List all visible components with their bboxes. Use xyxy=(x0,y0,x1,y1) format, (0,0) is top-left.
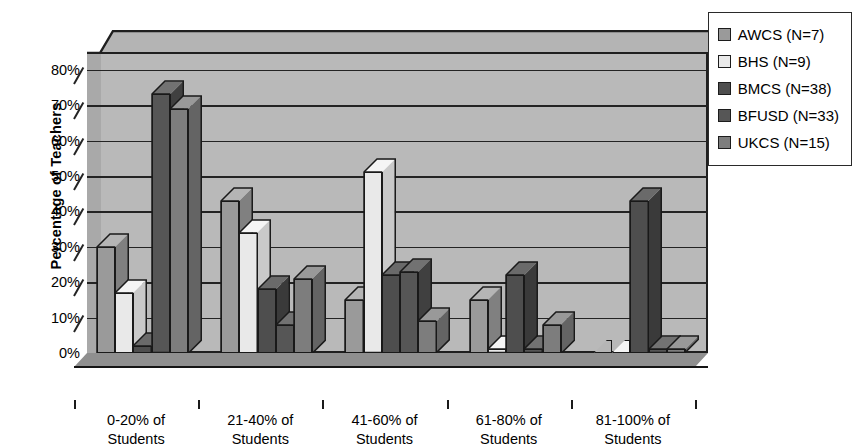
bar xyxy=(97,247,115,353)
y-tick-label: 0% xyxy=(28,346,80,361)
y-tick-label: 50% xyxy=(28,169,80,184)
bar xyxy=(258,289,276,353)
legend-swatch-icon xyxy=(718,136,731,149)
legend-swatch-icon xyxy=(718,28,731,41)
legend-item[interactable]: AWCS (N=7) xyxy=(718,21,839,48)
y-tick-label: 30% xyxy=(28,240,80,255)
x-tick-mark xyxy=(198,400,200,409)
bar xyxy=(630,201,648,353)
bar xyxy=(170,109,188,353)
y-tick-label: 40% xyxy=(28,204,80,219)
bars-layer xyxy=(87,52,708,353)
x-tick-mark xyxy=(447,400,449,409)
legend-swatch-icon xyxy=(718,109,731,122)
legend-swatch-icon xyxy=(718,55,731,68)
legend-swatch-icon xyxy=(718,82,731,95)
bar xyxy=(506,275,524,353)
bar xyxy=(239,233,257,353)
bar xyxy=(115,293,133,353)
bar xyxy=(364,172,382,353)
legend-item[interactable]: BMCS (N=38) xyxy=(718,75,839,102)
bar xyxy=(294,279,312,353)
bar xyxy=(133,346,151,353)
bar xyxy=(382,275,400,353)
plot-area: 0-20% ofStudents21-40% ofStudents41-60% … xyxy=(87,30,747,370)
bar xyxy=(470,300,488,353)
x-tick-mark xyxy=(695,400,697,409)
bar-top-face xyxy=(612,340,630,353)
plot-floor xyxy=(74,353,708,367)
bar xyxy=(345,300,363,353)
legend-item-label: UKCS (N=15) xyxy=(738,135,830,150)
x-axis-label-line: 81-100% of xyxy=(558,411,708,430)
legend-item[interactable]: UKCS (N=15) xyxy=(718,129,839,156)
plot-top-face xyxy=(87,30,721,53)
y-tick-label: 60% xyxy=(28,133,80,148)
legend-item-label: BMCS (N=38) xyxy=(738,81,832,96)
legend-item-label: BHS (N=9) xyxy=(738,54,811,69)
y-tick-label: 70% xyxy=(28,98,80,113)
legend-item[interactable]: BFUSD (N=33) xyxy=(718,102,839,129)
bar xyxy=(524,349,542,353)
bar xyxy=(221,201,239,353)
legend: AWCS (N=7)BHS (N=9)BMCS (N=38)BFUSD (N=3… xyxy=(708,12,852,166)
bar xyxy=(488,349,506,353)
y-tick-label: 80% xyxy=(28,62,80,77)
x-tick-mark xyxy=(571,400,573,409)
legend-item-label: BFUSD (N=33) xyxy=(738,108,839,123)
legend-item[interactable]: BHS (N=9) xyxy=(718,48,839,75)
x-tick-mark xyxy=(74,400,76,409)
bar xyxy=(649,349,667,353)
bar xyxy=(276,325,294,353)
bar xyxy=(543,325,561,353)
x-axis-line xyxy=(74,366,708,368)
bar-side-face xyxy=(312,266,325,353)
y-tick-label: 20% xyxy=(28,275,80,290)
y-axis-ticks: 0%10%20%30%40%50%60%70%80% xyxy=(24,0,80,433)
bar xyxy=(667,349,685,353)
bar xyxy=(418,321,436,353)
bar xyxy=(400,272,418,353)
legend-item-label: AWCS (N=7) xyxy=(738,27,825,42)
x-axis-label-line: Students xyxy=(558,430,708,448)
x-axis-label: 81-100% ofStudents xyxy=(558,411,708,448)
x-tick-mark xyxy=(322,400,324,409)
bar-top-face xyxy=(594,340,612,353)
bar-side-face xyxy=(188,96,201,353)
bar-side-face xyxy=(649,188,662,353)
y-tick-label: 10% xyxy=(28,310,80,325)
bar xyxy=(152,94,170,353)
